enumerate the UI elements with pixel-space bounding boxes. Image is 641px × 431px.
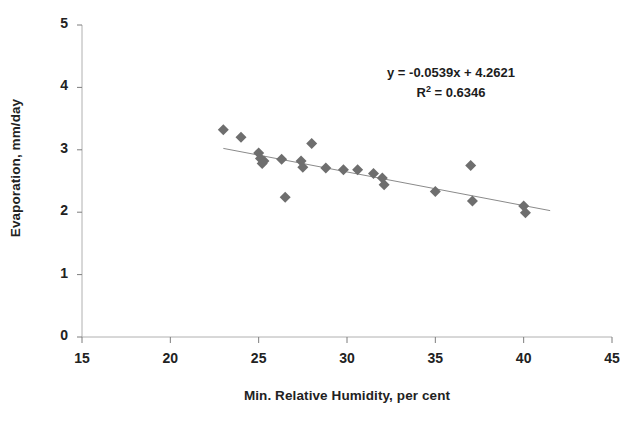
data-point-marker <box>338 164 349 175</box>
x-axis-title: Min. Relative Humidity, per cent <box>82 388 612 403</box>
data-point-marker <box>236 132 247 143</box>
data-point-marker <box>218 124 229 135</box>
data-point-marker <box>467 195 478 206</box>
r-squared-symbol: R <box>417 85 426 100</box>
y-tick-label: 4 <box>46 77 68 93</box>
x-tick-label: 15 <box>64 350 100 366</box>
x-tick-label: 20 <box>152 350 188 366</box>
x-tick-label: 45 <box>594 350 630 366</box>
y-tick-label: 1 <box>46 265 68 281</box>
x-tick-label: 30 <box>329 350 365 366</box>
r-squared-value: = 0.6346 <box>431 85 486 100</box>
trendline <box>223 148 550 210</box>
data-point-marker <box>320 162 331 173</box>
regression-equation: y = -0.0539x + 4.2621 <box>336 63 566 83</box>
data-points <box>218 124 531 218</box>
y-tick-label: 2 <box>46 202 68 218</box>
data-point-marker <box>276 154 287 165</box>
x-axis-ticks <box>82 337 612 343</box>
x-tick-label: 25 <box>241 350 277 366</box>
data-point-marker <box>465 160 476 171</box>
scatter-chart: Evaporation, mm/day Min. Relative Humidi… <box>0 0 641 431</box>
y-tick-label: 5 <box>46 15 68 31</box>
x-tick-label: 35 <box>417 350 453 366</box>
regression-annotation: y = -0.0539x + 4.2621 R2 = 0.6346 <box>336 63 566 104</box>
trendline-path <box>223 148 550 210</box>
y-axis-title-text: Evaporation, mm/day <box>8 48 23 288</box>
data-point-marker <box>280 192 291 203</box>
y-tick-label: 0 <box>46 327 68 343</box>
r-squared-line: R2 = 0.6346 <box>336 83 566 103</box>
y-tick-label: 3 <box>46 140 68 156</box>
x-tick-label: 40 <box>506 350 542 366</box>
data-point-marker <box>306 138 317 149</box>
y-axis-ticks <box>77 25 82 337</box>
